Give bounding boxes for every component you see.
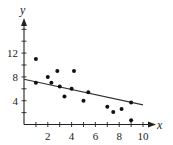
data-point xyxy=(49,81,53,85)
data-point xyxy=(82,99,86,103)
data-points xyxy=(34,57,133,122)
y-tick-label: 12 xyxy=(7,47,18,59)
x-tick-label: 8 xyxy=(116,130,122,142)
y-axis-label: y xyxy=(19,3,26,17)
data-point xyxy=(34,57,38,61)
x-axis-label: x xyxy=(156,118,163,132)
y-tick-label: 8 xyxy=(13,71,19,83)
data-point xyxy=(46,75,50,79)
data-point xyxy=(129,118,133,122)
data-point xyxy=(129,100,133,104)
x-tick-label: 4 xyxy=(69,130,75,142)
data-point xyxy=(86,90,90,94)
x-tick-label: 6 xyxy=(93,130,99,142)
x-axis-arrow-icon xyxy=(148,122,156,128)
data-point xyxy=(120,107,124,111)
data-point xyxy=(111,110,115,114)
data-point xyxy=(62,95,66,99)
scatter-chart: 2468104812 x y xyxy=(0,0,173,145)
data-point xyxy=(70,87,74,91)
axes: 2468104812 xyxy=(7,18,156,142)
x-tick-label: 2 xyxy=(45,130,51,142)
data-point xyxy=(34,81,38,85)
y-axis-arrow-icon xyxy=(21,18,27,26)
data-point xyxy=(55,69,59,73)
data-point xyxy=(58,84,62,88)
data-point xyxy=(72,69,76,73)
y-tick-label: 4 xyxy=(13,95,19,107)
x-tick-label: 10 xyxy=(138,130,150,142)
data-point xyxy=(105,105,109,109)
